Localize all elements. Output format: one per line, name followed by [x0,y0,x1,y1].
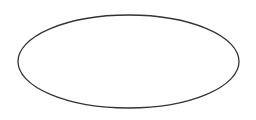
ellipse-shape [18,15,239,108]
diagram-canvas [0,0,256,120]
